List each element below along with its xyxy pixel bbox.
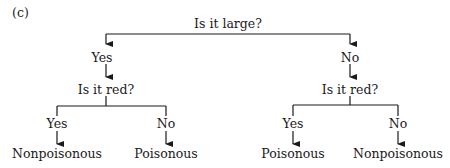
right-yes-label: Yes [283, 117, 304, 131]
leaf-left-no: Poisonous [134, 147, 197, 161]
root-no-label: No [341, 51, 359, 65]
leaf-right-no: Nonpoisonous [353, 147, 443, 161]
root-question: Is it large? [194, 17, 262, 31]
left-question: Is it red? [78, 83, 134, 97]
panel-label: (c) [12, 5, 29, 20]
root-yes-label: Yes [92, 51, 113, 65]
left-yes-label: Yes [47, 117, 68, 131]
leaf-left-yes: Nonpoisonous [12, 147, 102, 161]
left-no-label: No [157, 117, 175, 131]
right-no-label: No [389, 117, 407, 131]
right-question: Is it red? [322, 83, 378, 97]
decision-tree-diagram: (c) Is it large? Yes No Is it red? Is it… [0, 0, 450, 168]
leaf-right-yes: Poisonous [261, 147, 324, 161]
